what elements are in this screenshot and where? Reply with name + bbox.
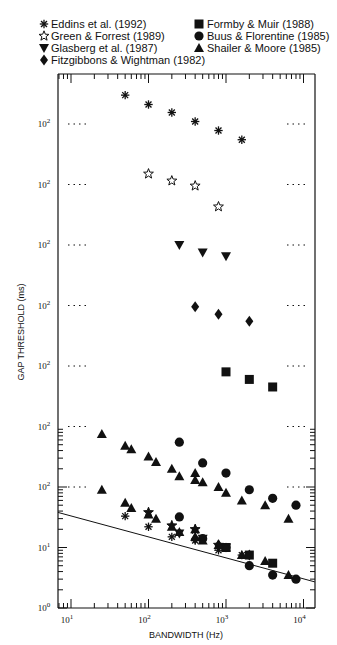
legend-label: Shailer & Moore (1985): [207, 42, 321, 54]
circle-marker: [268, 494, 277, 503]
triangle-marker: [237, 495, 247, 504]
asterisk-marker: [168, 533, 176, 541]
y-tick-label: 100: [38, 601, 51, 613]
y-axis-title: GAP THRESHOLD (ms): [16, 283, 26, 380]
panel-reference-label: 102: [38, 420, 51, 432]
asterisk-marker: [238, 136, 246, 144]
triangle-marker: [97, 429, 107, 438]
down-triangle-marker: [221, 252, 231, 261]
data-points: [97, 91, 301, 584]
x-tick-label: 101: [61, 613, 74, 625]
diamond-marker: [214, 309, 222, 320]
panel-reference-label: 102: [38, 178, 51, 190]
triangle-marker: [151, 457, 161, 466]
circle-marker: [198, 458, 207, 467]
asterisk-marker: [144, 100, 152, 108]
triangle-marker: [283, 570, 293, 579]
down-triangle-marker: [174, 241, 184, 250]
circle-marker: [194, 31, 203, 40]
diamond-marker: [245, 316, 253, 327]
circle-marker: [291, 501, 300, 510]
diamond-marker: [40, 55, 48, 66]
triangle-marker: [120, 498, 130, 507]
regression-line: [58, 512, 315, 581]
down-triangle-marker: [198, 249, 208, 258]
asterisk-marker: [121, 512, 129, 520]
circle-marker: [268, 570, 277, 579]
triangle-marker: [97, 485, 107, 494]
y-tick-label: 101: [38, 541, 51, 553]
legend-label: Fitzgibbons & Wightman (1982): [51, 54, 205, 66]
circle-marker: [245, 485, 254, 494]
asterisk-marker: [40, 20, 48, 28]
square-marker: [222, 367, 231, 376]
legend-label: Buus & Florentine (1985): [207, 30, 329, 42]
legend-label: Formby & Muir (1988): [207, 18, 314, 30]
legend-label: Eddins et al. (1992): [51, 18, 146, 30]
legend-label: Glasberg et al. (1987): [51, 42, 157, 54]
star-marker: [39, 31, 49, 40]
panel-reference-label: 102: [38, 359, 51, 371]
triangle-marker: [213, 482, 223, 491]
square-marker: [195, 20, 204, 29]
star-marker: [167, 176, 177, 185]
triangle-marker: [144, 451, 154, 460]
triangle-marker: [283, 514, 293, 523]
legend: Eddins et al. (1992)Green & Forrest (198…: [39, 18, 329, 66]
asterisk-marker: [168, 108, 176, 116]
asterisk-marker: [121, 91, 129, 99]
triangle-marker: [221, 488, 231, 497]
triangle-marker: [260, 500, 270, 509]
circle-marker: [221, 468, 230, 477]
panel-reference-label: 102: [38, 238, 51, 250]
star-marker: [190, 181, 200, 191]
star-marker: [144, 169, 154, 179]
square-marker: [268, 559, 277, 568]
square-marker: [268, 382, 277, 391]
asterisk-marker: [144, 523, 152, 531]
triangle-marker: [167, 464, 177, 473]
panel-reference-label: 102: [38, 117, 51, 129]
diamond-marker: [191, 301, 199, 312]
panel-reference-label: 102: [38, 480, 51, 492]
asterisk-marker: [191, 117, 199, 125]
circle-marker: [175, 438, 184, 447]
circle-marker: [291, 575, 300, 584]
triangle-marker: [167, 522, 177, 531]
triangle-marker: [194, 43, 204, 52]
square-marker: [245, 375, 254, 384]
circle-marker: [245, 561, 254, 570]
x-tick-label: 104: [293, 613, 306, 625]
x-tick-label: 102: [138, 613, 151, 625]
axes: 101102103104100101102102102102102102102: [38, 74, 315, 625]
panel-reference-label: 102: [38, 299, 51, 311]
x-tick-label: 103: [216, 613, 229, 625]
circle-marker: [175, 512, 184, 521]
asterisk-marker: [214, 126, 222, 134]
x-axis-title: BANDWIDTH (Hz): [149, 630, 223, 640]
triangle-marker: [120, 441, 130, 450]
legend-label: Green & Forrest (1989): [51, 30, 165, 42]
down-triangle-marker: [39, 44, 49, 53]
triangle-marker: [198, 477, 208, 486]
gap-threshold-chart: Eddins et al. (1992)Green & Forrest (198…: [0, 0, 337, 645]
star-marker: [214, 202, 224, 211]
